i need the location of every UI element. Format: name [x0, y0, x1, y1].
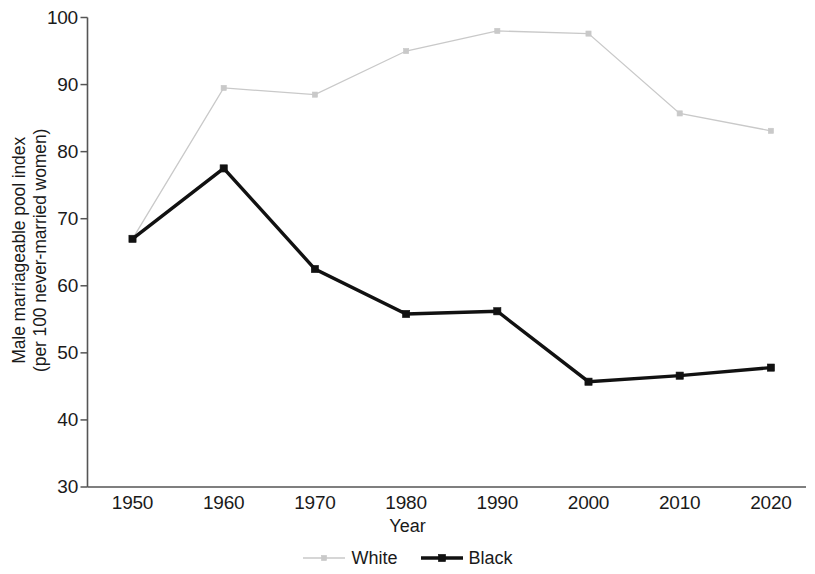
legend-label: Black [469, 549, 513, 567]
x-tick-label: 1980 [385, 492, 426, 514]
x-tick-label: 1960 [203, 492, 244, 514]
chart-legend: WhiteBlack [0, 549, 815, 567]
data-point-black [494, 308, 501, 315]
legend-label: White [351, 549, 397, 567]
legend-marker [438, 554, 445, 561]
data-point-white [221, 85, 226, 90]
data-point-black [585, 378, 592, 385]
x-tick-label: 1970 [294, 492, 335, 514]
axis-lines [88, 18, 807, 488]
axis-ticks [81, 18, 88, 488]
data-point-black [129, 235, 136, 242]
data-point-black [403, 310, 410, 317]
data-point-white [677, 111, 682, 116]
x-tick-label: 2020 [750, 492, 791, 514]
data-point-white [495, 28, 500, 33]
data-point-black [676, 372, 683, 379]
x-tick-label: 1990 [477, 492, 518, 514]
data-point-white [312, 92, 317, 97]
data-point-white [768, 128, 773, 133]
data-point-black [311, 265, 318, 272]
legend-marker [322, 555, 327, 560]
series-line-white [133, 31, 771, 239]
legend-item-black[interactable]: Black [420, 549, 513, 567]
data-point-black [767, 364, 774, 371]
x-tick-label: 1950 [112, 492, 153, 514]
series-line-black [133, 168, 771, 381]
x-tick-label: 2000 [568, 492, 609, 514]
legend-swatch-white-icon [302, 551, 346, 565]
x-tick-label: 2010 [659, 492, 700, 514]
data-point-white [586, 31, 591, 36]
data-series-group [129, 28, 775, 385]
data-point-black [220, 165, 227, 172]
data-point-white [404, 48, 409, 53]
legend-swatch-black-icon [420, 551, 464, 565]
legend-item-white[interactable]: White [302, 549, 397, 567]
plot-area [0, 0, 815, 574]
chart-figure: Male marriageable pool index (per 100 ne… [0, 0, 815, 574]
